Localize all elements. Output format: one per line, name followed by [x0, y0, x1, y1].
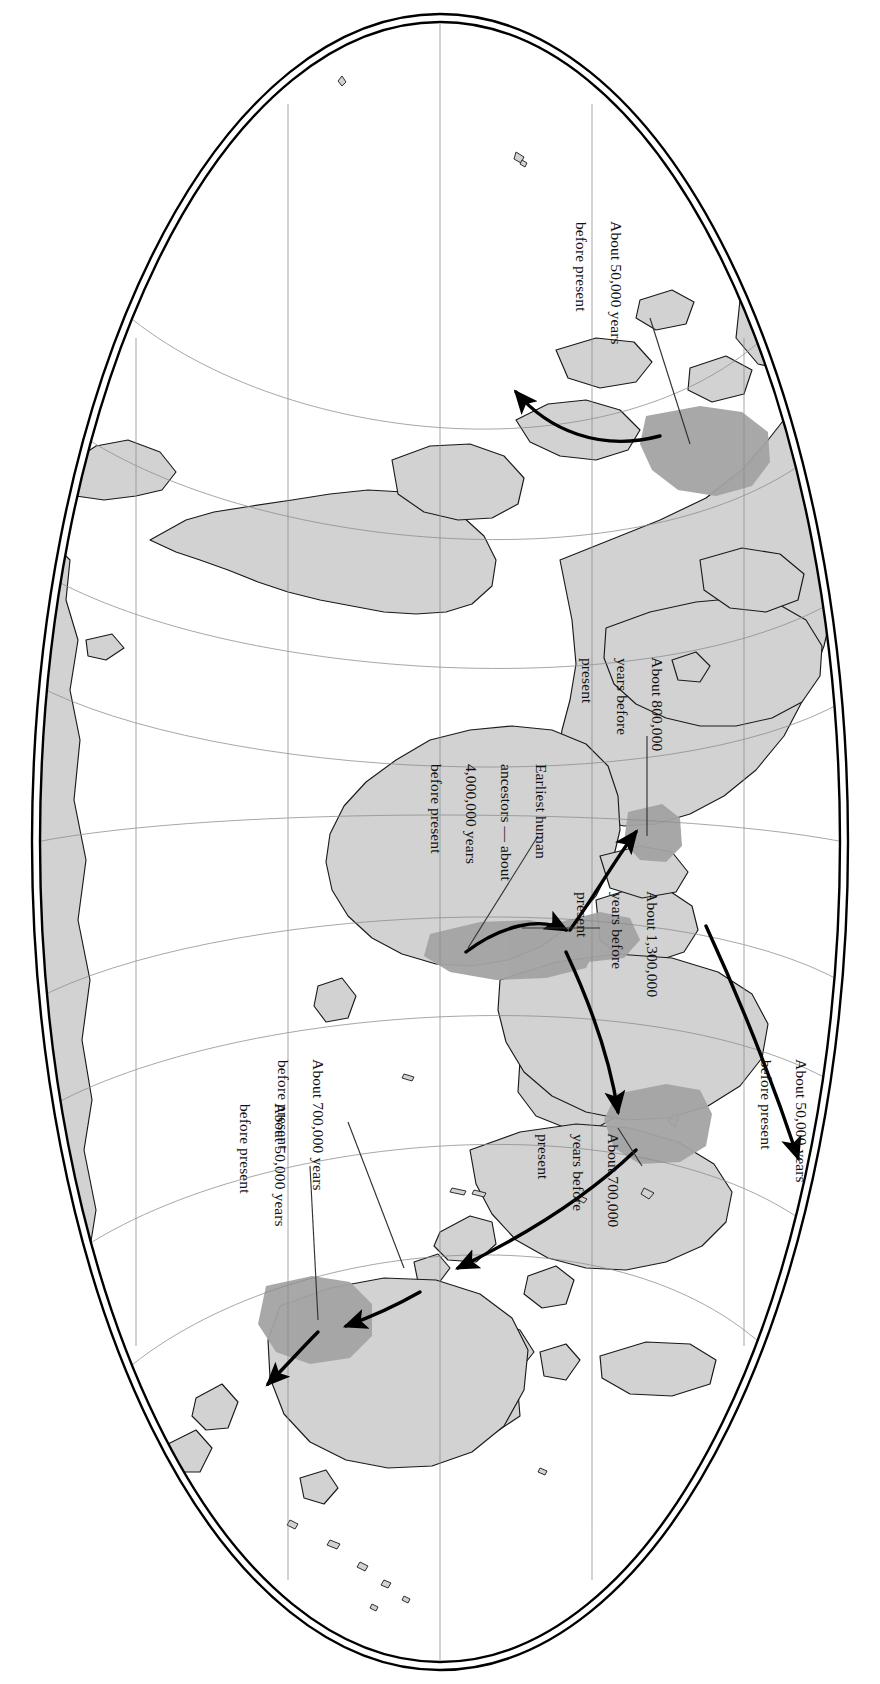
map-canvas	[0, 0, 880, 1684]
migration-map: About 50,000 years before present About …	[0, 0, 880, 1684]
